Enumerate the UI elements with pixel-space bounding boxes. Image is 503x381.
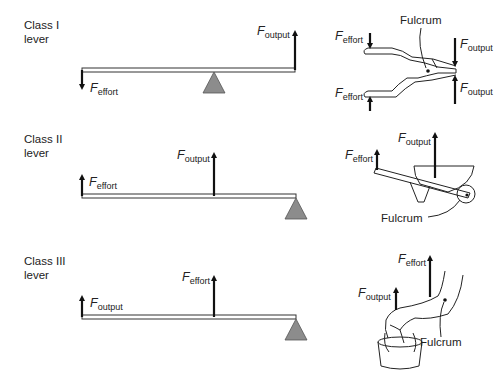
class-2-fulcrum-icon <box>285 198 307 219</box>
lever-diagram: Class I lever Feffort Foutput Fulcrum Fe… <box>0 0 503 381</box>
class-1-panel: Class I lever Feffort Foutput Fulcrum Fe… <box>24 14 493 111</box>
wheelbarrow-illustration: Fulcrum Feffort Foutput <box>345 131 475 224</box>
pliers-output-bottom-label: Foutput <box>460 81 493 97</box>
class-3-fulcrum-icon <box>285 319 307 340</box>
wheelbarrow-output-label: Foutput <box>398 131 431 147</box>
pliers-effort-bottom-label: Feffort <box>335 86 363 102</box>
pliers-effort-top-label: Feffort <box>335 29 363 45</box>
class-3-title: Class III <box>24 255 66 267</box>
class-3-panel: Class III lever Foutput Feffort Fulcrum … <box>24 252 463 369</box>
class-3-output-label: Foutput <box>90 296 123 312</box>
class-1-lever-bar <box>82 68 295 72</box>
class-3-subtitle: lever <box>24 269 49 281</box>
class-1-fulcrum-icon <box>203 72 225 93</box>
wheelbarrow-fulcrum-label: Fulcrum <box>381 212 423 224</box>
class-2-output-label: Foutput <box>177 148 210 164</box>
pliers-output-top-label: Foutput <box>460 37 493 53</box>
arm-bucket-illustration: Fulcrum Feffort Foutput <box>358 252 463 369</box>
elbow-pivot-icon <box>443 298 447 302</box>
arm-output-label: Foutput <box>358 286 391 302</box>
wheel-axle-icon <box>465 193 468 196</box>
class-1-effort-label: Feffort <box>90 81 118 97</box>
wheelbarrow-effort-label: Feffort <box>345 148 373 164</box>
class-3-lever-bar <box>82 315 296 319</box>
pliers-fulcrum-label: Fulcrum <box>400 14 442 26</box>
arm-fulcrum-label: Fulcrum <box>420 336 462 348</box>
arm-effort-label: Feffort <box>398 252 426 268</box>
class-2-panel: Class II lever Feffort Foutput Fulcrum F… <box>24 131 475 224</box>
class-2-subtitle: lever <box>24 147 49 159</box>
pliers-illustration: Fulcrum Feffort Feffort Foutput Foutput <box>335 14 493 111</box>
class-2-effort-label: Feffort <box>89 175 117 191</box>
class-1-subtitle: lever <box>24 33 49 45</box>
class-2-lever-bar <box>82 194 296 198</box>
pliers-pivot-icon <box>426 69 430 73</box>
class-1-output-label: Foutput <box>257 24 290 40</box>
class-1-title: Class I <box>24 19 59 31</box>
class-3-effort-label: Feffort <box>182 270 210 286</box>
class-2-title: Class II <box>24 133 62 145</box>
